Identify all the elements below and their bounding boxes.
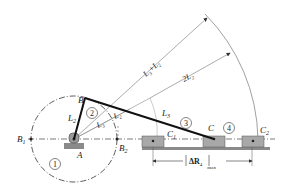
point-B2 xyxy=(116,138,119,141)
ground-A xyxy=(64,143,84,149)
label-L3-minus-L2-a: L3 xyxy=(94,119,106,132)
slider-ground xyxy=(142,147,270,150)
label-C: C xyxy=(208,123,215,133)
arc-max-reach xyxy=(205,14,258,139)
diagram-canvas: 1 2 3 4 B A B1 B2 C C1 C2 L2 L3 L3 L2 L3… xyxy=(0,0,285,194)
label-B: B xyxy=(78,95,84,105)
pin-C2 xyxy=(252,140,255,143)
label-C1: C1 xyxy=(167,129,176,140)
slider-crank-diagram: 1 2 3 4 B A B1 B2 C C1 C2 L2 L3 L3 L2 L3… xyxy=(0,0,285,194)
label-delta-R4-max: ΔR4max xyxy=(189,157,216,170)
label-L2: L2 xyxy=(67,113,76,124)
link-number-1: 1 xyxy=(53,160,57,169)
label-L3: L3 xyxy=(161,108,170,119)
slider-block-C xyxy=(203,136,225,147)
link-number-2: 2 xyxy=(90,109,94,118)
link-number-3: 3 xyxy=(184,119,188,128)
label-B1: B1 xyxy=(17,134,26,145)
point-B1 xyxy=(30,138,33,141)
link-number-4: 4 xyxy=(227,124,231,133)
label-A: A xyxy=(76,150,83,160)
label-2L2: 2L2 xyxy=(181,70,196,84)
link-coupler-BC xyxy=(85,98,214,139)
label-C2: C2 xyxy=(260,125,269,136)
pin-C1 xyxy=(152,140,155,143)
label-B2: B2 xyxy=(119,143,128,154)
